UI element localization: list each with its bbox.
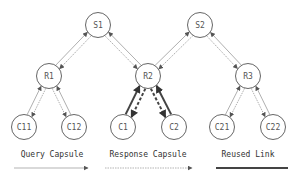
node-s1: S1 [86, 13, 111, 38]
query-capsule-arrow [157, 86, 172, 115]
response-capsule-arrow [230, 88, 245, 117]
node-label: C1 [118, 123, 128, 132]
response-capsule-arrow [207, 36, 238, 69]
legend-item-reused: Reused Link [216, 150, 288, 168]
legend-label-query: Query Capsule [21, 150, 84, 159]
query-capsule-arrow [57, 86, 71, 115]
node-r2: R2 [136, 64, 161, 89]
legend-item-query: Query Capsule [14, 150, 88, 168]
node-label: C11 [17, 123, 32, 132]
edge-s2-r3 [207, 32, 242, 68]
response-capsule-arrow [32, 88, 46, 117]
edge-r3-c22 [251, 86, 270, 117]
edge-s1-r2 [105, 32, 141, 69]
response-capsule-arrow [60, 36, 92, 69]
node-r1: R1 [37, 64, 62, 89]
response-capsule-arrow [151, 89, 166, 118]
node-s2: S2 [188, 13, 213, 38]
nodes-layer: S1S2R1R2R3C11C12C1C2C21C22 [12, 13, 286, 140]
query-capsule-arrow [210, 32, 241, 65]
node-c21: C21 [210, 115, 235, 140]
legend-label-response: Response Capsule [109, 150, 186, 159]
node-label: R2 [143, 72, 153, 81]
query-capsule-arrow [155, 32, 189, 65]
node-label: C12 [67, 123, 82, 132]
response-capsule-arrow [131, 89, 145, 118]
node-label: C21 [215, 123, 230, 132]
query-capsule-arrow [126, 86, 140, 115]
edge-r1-c12 [52, 86, 71, 117]
legend: Query Capsule Response Capsule Reused Li… [14, 150, 288, 168]
edge-r1-c11 [27, 86, 46, 117]
response-capsule-arrow [105, 36, 137, 69]
edge-s1-r1 [56, 32, 91, 69]
node-label: R3 [243, 72, 253, 81]
response-capsule-arrow [159, 36, 193, 69]
node-r3: R3 [236, 64, 261, 89]
edge-r3-c21 [225, 86, 244, 117]
query-capsule-arrow [225, 86, 240, 115]
legend-item-response: Response Capsule [105, 150, 192, 168]
node-c22: C22 [261, 115, 286, 140]
edge-s2-r2 [155, 32, 193, 69]
node-label: S1 [93, 21, 103, 30]
node-c2: C2 [162, 115, 187, 140]
query-capsule-arrow [56, 32, 88, 65]
node-c1: C1 [111, 115, 136, 140]
node-c11: C11 [12, 115, 37, 140]
edge-r2-c1 [126, 86, 146, 117]
node-c12: C12 [62, 115, 87, 140]
query-capsule-arrow [256, 86, 270, 115]
network-diagram: S1S2R1R2R3C11C12C1C2C21C22 Query Capsule… [0, 0, 300, 172]
query-capsule-arrow [27, 86, 41, 115]
node-label: C22 [266, 123, 281, 132]
query-capsule-arrow [109, 32, 141, 65]
edge-r2-c2 [151, 86, 171, 118]
response-capsule-arrow [52, 88, 66, 117]
node-label: R1 [44, 72, 54, 81]
response-capsule-arrow [251, 88, 265, 117]
node-label: C2 [169, 123, 179, 132]
legend-label-reused: Reused Link [222, 150, 275, 159]
node-label: S2 [195, 21, 205, 30]
